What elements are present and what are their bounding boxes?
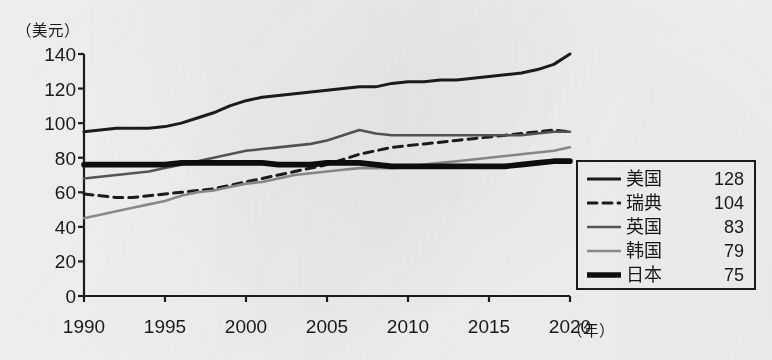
- legend-value: 75: [724, 266, 744, 284]
- legend-label: 美国: [626, 170, 662, 188]
- legend-row: 美国128: [578, 167, 754, 191]
- y-axis-tick-label: 0: [18, 287, 76, 306]
- y-axis-tick-label: 80: [18, 149, 76, 168]
- x-axis-tick-label: 2000: [211, 317, 281, 336]
- series-line-0: [84, 54, 570, 132]
- legend-line-swatch-3: [587, 244, 621, 258]
- legend-label: 韩国: [626, 242, 662, 260]
- legend-label: 英国: [626, 218, 662, 236]
- legend-row: 英国83: [578, 215, 754, 239]
- legend-line-swatch-0: [587, 172, 621, 186]
- chart-series-lines: [84, 54, 570, 218]
- series-line-4: [84, 161, 570, 166]
- legend-value: 104: [714, 194, 744, 212]
- legend-value: 79: [724, 242, 744, 260]
- x-axis-tick-label: 1995: [130, 317, 200, 336]
- x-axis-tick-label: 2010: [373, 317, 443, 336]
- legend-line-swatch-4: [587, 268, 621, 282]
- y-axis-unit-label: （美元）: [16, 18, 80, 40]
- y-axis-tick-label: 20: [18, 252, 76, 271]
- chart-legend: 美国128瑞典104英国83韩国79日本75: [576, 160, 756, 290]
- legend-value: 83: [724, 218, 744, 236]
- x-axis-tick-label: 2015: [454, 317, 524, 336]
- legend-row: 韩国79: [578, 239, 754, 263]
- legend-row: 瑞典104: [578, 191, 754, 215]
- y-axis-tick-label: 60: [18, 183, 76, 202]
- legend-label: 瑞典: [626, 194, 662, 212]
- legend-label: 日本: [626, 266, 662, 284]
- y-axis-tick-label: 120: [18, 80, 76, 99]
- x-axis-tick-label: 2005: [292, 317, 362, 336]
- x-axis-tick-label: 1990: [49, 317, 119, 336]
- legend-value: 128: [714, 170, 744, 188]
- series-line-3: [84, 147, 570, 218]
- y-axis-tick-label: 100: [18, 114, 76, 133]
- y-axis-tick-label: 40: [18, 218, 76, 237]
- x-axis-tick-label: 2020: [535, 317, 605, 336]
- legend-line-swatch-1: [587, 196, 621, 210]
- legend-line-swatch-2: [587, 220, 621, 234]
- line-chart-figure: （美元） （年） 020406080100120140 199019952000…: [0, 0, 772, 360]
- legend-row: 日本75: [578, 263, 754, 287]
- y-axis-tick-label: 140: [18, 45, 76, 64]
